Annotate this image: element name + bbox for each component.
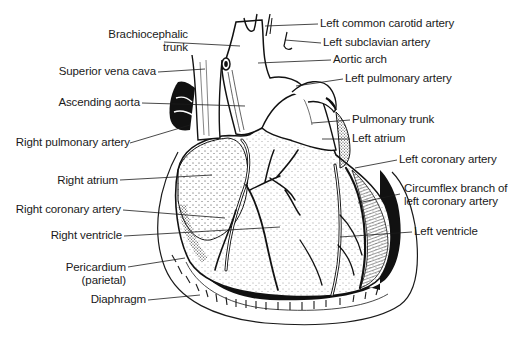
label-line: Left subclavian artery [323,36,430,49]
label-brachiocephalic-trunk: Brachiocephalic trunk [70,28,188,54]
label-line: Left coronary artery [399,153,497,166]
label-line: Left ventricle [414,225,478,238]
label-line: Pulmonary trunk [352,113,434,126]
label-right-coronary-artery: Right coronary artery [0,203,121,216]
label-left-common-carotid-artery: Left common carotid artery [320,17,454,30]
label-aortic-arch: Aortic arch [333,53,387,66]
label-line: Right coronary artery [0,203,121,216]
label-line: Diaphragm [40,293,146,306]
label-line: trunk [70,41,188,54]
label-left-ventricle: Left ventricle [414,225,478,238]
label-pericardium: Pericardium (parietal) [20,261,126,287]
label-left-atrium: Left atrium [352,132,405,145]
label-line: Superior vena cava [20,65,156,78]
label-circumflex-branch: Circumflex branch of left coronary arter… [404,182,507,208]
label-line: Circumflex branch of [404,182,507,195]
label-pulmonary-trunk: Pulmonary trunk [352,113,434,126]
label-line: Left atrium [352,132,405,145]
label-left-subclavian-artery: Left subclavian artery [323,36,430,49]
label-line: Aortic arch [333,53,387,66]
label-line: Brachiocephalic [70,28,188,41]
label-diaphragm: Diaphragm [40,293,146,306]
label-line: Right ventricle [20,229,122,242]
label-line: Right atrium [20,174,118,187]
label-line: Left common carotid artery [320,17,454,30]
label-line: left coronary artery [404,195,507,208]
label-ascending-aorta: Ascending aorta [20,96,140,109]
label-left-coronary-artery: Left coronary artery [399,153,497,166]
label-right-ventricle: Right ventricle [20,229,122,242]
label-line: (parietal) [20,274,126,287]
label-right-atrium: Right atrium [20,174,118,187]
label-line: Left pulmonary artery [345,72,452,85]
label-line: Ascending aorta [20,96,140,109]
label-superior-vena-cava: Superior vena cava [20,65,156,78]
label-line: Pericardium [20,261,126,274]
label-right-pulmonary-artery: Right pulmonary artery [0,136,130,149]
label-line: Right pulmonary artery [0,136,130,149]
label-left-pulmonary-artery: Left pulmonary artery [345,72,452,85]
